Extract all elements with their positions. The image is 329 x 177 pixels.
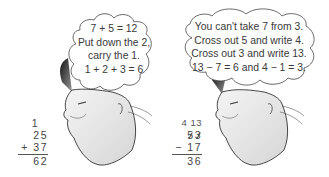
left-calculation: 1 25 + 37 62 (18, 117, 48, 167)
bubble-line: Cross out 3 and write 13. (184, 47, 314, 61)
minuend: 53 (172, 129, 202, 141)
subtrahend: − 17 (172, 141, 202, 153)
bubble-line: Cross out 5 and write 4. (184, 34, 314, 48)
bubble-line: 1 + 2 + 3 = 6 (72, 63, 156, 77)
bubble-line: You can't take 7 from 3. (184, 20, 314, 34)
crossed-digit: 5 (187, 129, 194, 141)
addend-top: 25 (18, 129, 48, 141)
bubble-line: carry the 1. (72, 49, 156, 63)
right-head-icon (212, 74, 304, 165)
carry-digit: 1 (18, 117, 48, 129)
crossed-digit: 3 (195, 129, 202, 141)
sum-result: 62 (18, 154, 48, 167)
bubble-line: Put down the 2, (72, 36, 156, 50)
right-bubble-text: You can't take 7 from 3. Cross out 5 and… (184, 20, 314, 74)
addend-bottom: + 37 (18, 141, 48, 153)
left-bubble-text: 7 + 5 = 12 Put down the 2, carry the 1. … (72, 22, 156, 76)
right-calculation: 4 13 53 − 17 36 (172, 117, 202, 167)
difference-result: 36 (172, 154, 202, 167)
figure: 7 + 5 = 12 Put down the 2, carry the 1. … (0, 0, 329, 177)
borrow-digits: 4 13 (172, 117, 202, 129)
bubble-line: 13 − 7 = 6 and 4 − 1 = 3. (184, 61, 314, 75)
bubble-line: 7 + 5 = 12 (72, 22, 156, 36)
